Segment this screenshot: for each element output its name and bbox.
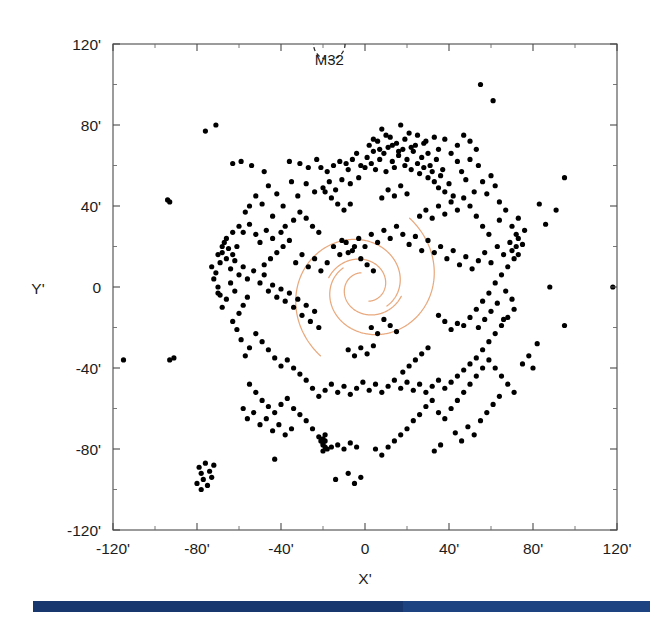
data-point [312, 309, 317, 314]
data-point [257, 422, 262, 427]
data-point [352, 481, 357, 486]
data-point [400, 369, 405, 374]
data-point [507, 240, 512, 245]
data-point [356, 236, 361, 241]
plot-frame-rect [113, 44, 617, 530]
x-tick-label: 40' [439, 540, 459, 557]
data-point [213, 270, 218, 275]
data-point [480, 224, 485, 229]
data-point [230, 252, 235, 257]
data-point [310, 386, 315, 391]
data-point [438, 173, 443, 178]
data-point [449, 327, 454, 332]
data-point [287, 290, 292, 295]
data-point [467, 315, 472, 320]
data-point [297, 371, 302, 376]
data-point [461, 390, 466, 395]
data-point [421, 165, 426, 170]
data-point [417, 382, 422, 387]
data-point [230, 319, 235, 324]
data-point [413, 357, 418, 362]
data-point [297, 412, 302, 417]
data-point [310, 224, 315, 229]
data-point [299, 252, 304, 257]
y-axis-title: Y' [31, 280, 44, 297]
data-point [409, 145, 414, 150]
data-point [348, 181, 353, 186]
data-point [474, 307, 479, 312]
data-point [411, 388, 416, 393]
x-tick-label: -40' [268, 540, 293, 557]
data-point [543, 222, 548, 227]
data-point [304, 181, 309, 186]
data-point [449, 406, 454, 411]
data-point [278, 363, 283, 368]
bottom-decorative-bar [33, 601, 650, 612]
data-point [335, 201, 340, 206]
data-point [274, 191, 279, 196]
data-point [260, 398, 265, 403]
data-point [270, 214, 275, 219]
data-point [373, 446, 378, 451]
data-point [398, 122, 403, 127]
data-point [218, 293, 223, 298]
data-point [253, 390, 258, 395]
y-tick-label: 0 [92, 279, 101, 296]
data-point [285, 357, 290, 362]
data-point [268, 256, 273, 261]
data-point [486, 290, 491, 295]
data-point [281, 203, 286, 208]
data-point [224, 236, 229, 241]
spiral-arm-outer-arm-b [296, 239, 401, 355]
data-point [451, 193, 456, 198]
data-point [262, 262, 267, 267]
data-point [554, 207, 559, 212]
data-point [276, 422, 281, 427]
data-point [455, 159, 460, 164]
data-point [239, 337, 244, 342]
data-point [402, 163, 407, 168]
data-point [335, 442, 340, 447]
data-point [352, 353, 357, 358]
data-point [488, 309, 493, 314]
data-point [499, 272, 504, 277]
data-point [316, 394, 321, 399]
spiral-arm-inner-arm-b [329, 259, 386, 301]
data-point [375, 240, 380, 245]
data-point [402, 137, 407, 142]
data-point [547, 284, 552, 289]
data-point [293, 260, 298, 265]
data-point [241, 230, 246, 235]
data-point [425, 151, 430, 156]
data-point [249, 163, 254, 168]
data-point [297, 209, 302, 214]
data-point [270, 236, 275, 241]
data-point [245, 276, 250, 281]
data-point [354, 151, 359, 156]
data-point [421, 141, 426, 146]
data-point [530, 365, 535, 370]
data-point [404, 191, 409, 196]
data-point [346, 167, 351, 172]
data-point [486, 357, 491, 362]
data-point [228, 266, 233, 271]
data-point [400, 232, 405, 237]
data-point [304, 418, 309, 423]
data-point [299, 313, 304, 318]
data-point [499, 323, 504, 328]
data-point [333, 187, 338, 192]
data-point [432, 250, 437, 255]
data-point [472, 189, 477, 194]
data-point [211, 276, 216, 281]
data-point [562, 323, 567, 328]
data-point [257, 280, 262, 285]
data-point [381, 228, 386, 233]
data-point [491, 402, 496, 407]
spiral-arm-inner-arm-a [344, 273, 401, 315]
data-point [392, 438, 397, 443]
data-point [365, 262, 370, 267]
data-point [232, 288, 237, 293]
data-point [278, 230, 283, 235]
data-point [520, 242, 525, 247]
data-point [423, 390, 428, 395]
